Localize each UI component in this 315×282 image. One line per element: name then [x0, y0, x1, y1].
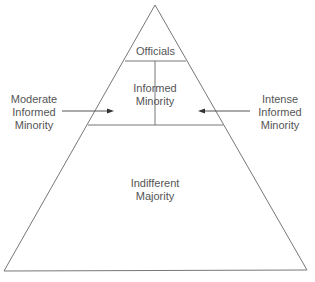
left-side-label: Moderate Informed Minority	[6, 93, 62, 132]
left-arrowhead	[107, 109, 114, 114]
informed-right-text: Informed	[250, 106, 310, 119]
level-indifferent-majority-label: Indifferent Majority	[110, 177, 200, 203]
right-side-label: Intense Informed Minority	[250, 93, 310, 132]
informed-left-text: Informed	[6, 106, 62, 119]
level-officials-label: Officials	[125, 45, 186, 58]
minority-right-text: Minority	[250, 119, 310, 132]
level-informed-minority-label: Informed Minority	[115, 82, 195, 108]
officials-text: Officials	[125, 45, 186, 58]
informed-text: Informed	[115, 82, 195, 95]
majority-text: Majority	[110, 190, 200, 203]
minority-left-text: Minority	[6, 119, 62, 132]
intense-text: Intense	[250, 93, 310, 106]
moderate-text: Moderate	[6, 93, 62, 106]
indifferent-text: Indifferent	[110, 177, 200, 190]
pyramid-diagram	[0, 0, 315, 282]
minority-text: Minority	[115, 95, 195, 108]
right-arrowhead	[198, 109, 205, 114]
